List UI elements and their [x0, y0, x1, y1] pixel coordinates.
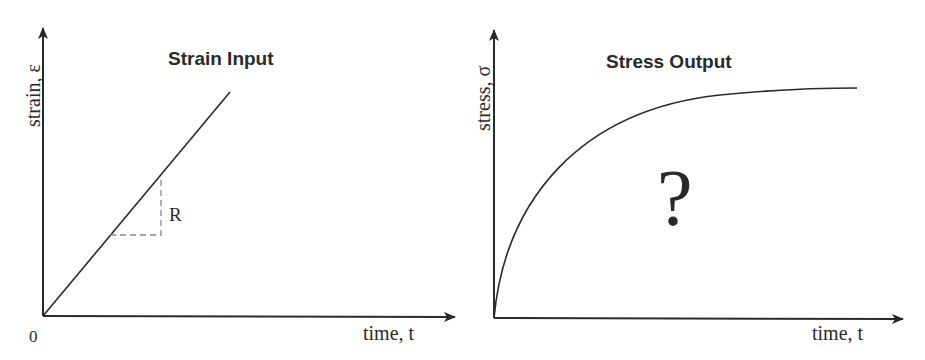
slope-label: R — [169, 204, 182, 225]
strain-input-title: Strain Input — [168, 48, 274, 69]
strain-x-axis — [43, 316, 455, 317]
strain-input-panel: Strain Input strain, ε time, t 0 R — [22, 28, 455, 346]
strain-y-axis-label: strain, ε — [22, 64, 44, 127]
stress-output-title: Stress Output — [606, 51, 732, 72]
stress-y-axis-label: stress, σ — [472, 66, 494, 131]
diagram-canvas: Strain Input strain, ε time, t 0 R Stres… — [0, 0, 925, 360]
question-mark: ? — [657, 154, 693, 242]
strain-x-axis-label: time, t — [363, 322, 415, 344]
stress-x-axis-label: time, t — [812, 322, 864, 344]
stress-x-axis — [494, 318, 903, 319]
origin-label: 0 — [29, 327, 38, 346]
stress-output-panel: Stress Output stress, σ time, t ? — [472, 30, 903, 344]
strain-ramp-line — [43, 92, 230, 316]
